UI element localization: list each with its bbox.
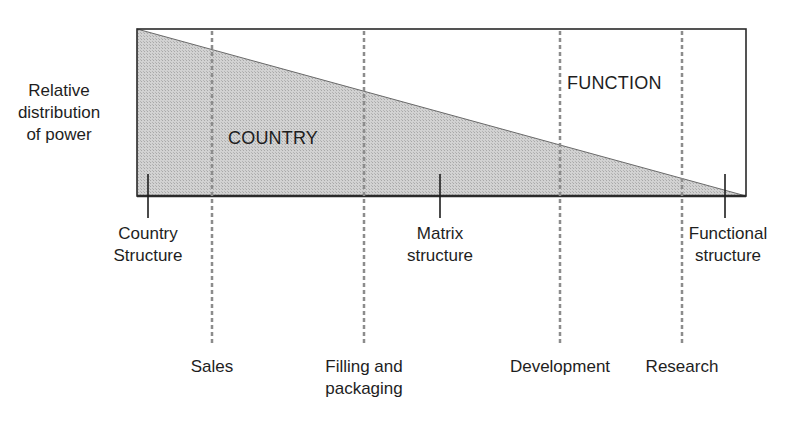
label-line: structure [680, 245, 776, 267]
function-label-filling: Filling and packaging [304, 356, 424, 400]
structure-label-matrix: Matrix structure [390, 223, 490, 267]
label-line: Functional [680, 223, 776, 245]
label-line: Structure [98, 245, 198, 267]
function-label-development: Development [495, 356, 625, 378]
label-line: Matrix [390, 223, 490, 245]
y-axis-label: Relative distribution of power [0, 80, 118, 146]
country-region-label: COUNTRY [228, 127, 318, 149]
y-axis-label-line: Relative [0, 80, 118, 102]
structure-label-country: Country Structure [98, 223, 198, 267]
label-line: Filling and [304, 356, 424, 378]
function-label-sales: Sales [162, 356, 262, 378]
label-line: structure [390, 245, 490, 267]
label-line: packaging [304, 378, 424, 400]
structure-label-functional: Functional structure [680, 223, 776, 267]
y-axis-label-line: of power [0, 124, 118, 146]
function-label-research: Research [627, 356, 737, 378]
label-line: Country [98, 223, 198, 245]
y-axis-label-line: distribution [0, 102, 118, 124]
function-region-label: FUNCTION [567, 72, 662, 94]
